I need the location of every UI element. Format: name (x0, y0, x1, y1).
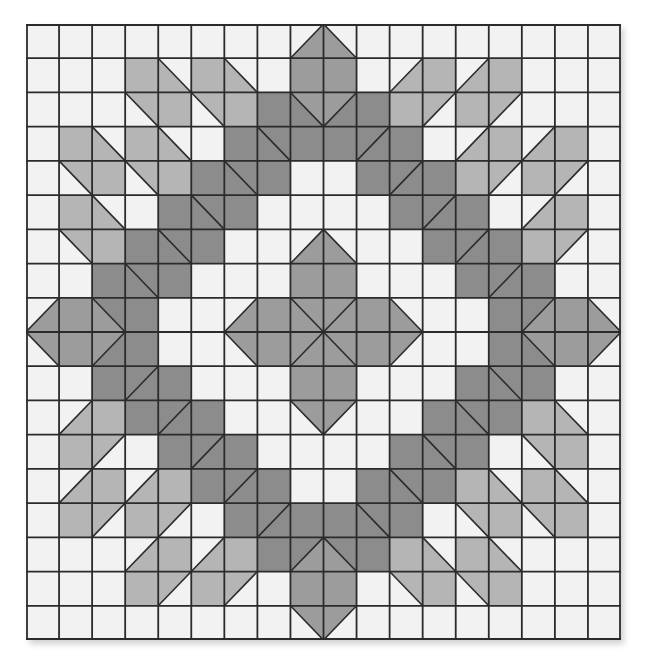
quilt-square (59, 92, 92, 127)
quilt-square (191, 24, 224, 59)
quilt-square (357, 469, 390, 504)
quilt-square (125, 503, 158, 538)
quilt-square (59, 435, 92, 470)
quilt-square (423, 229, 456, 264)
quilt-square (555, 435, 588, 470)
quilt-square (59, 195, 92, 230)
quilt-square (555, 264, 588, 299)
quilt-square (26, 92, 59, 127)
quilt-square (290, 572, 323, 607)
quilt-square (26, 503, 59, 538)
quilt-square (357, 400, 390, 435)
quilt-square (59, 127, 92, 162)
quilt-square (224, 92, 257, 127)
quilt-square (290, 127, 323, 162)
quilt-square (92, 537, 125, 572)
quilt-square (588, 469, 621, 504)
quilt-square (158, 332, 191, 367)
quilt-square (555, 366, 588, 401)
quilt-square (92, 469, 125, 504)
quilt-square (588, 195, 621, 230)
quilt-square (357, 24, 390, 59)
quilt-square (191, 366, 224, 401)
quilt-square (158, 298, 191, 333)
quilt-square (224, 366, 257, 401)
quilt-square (555, 606, 588, 640)
quilt-square (59, 503, 92, 538)
quilt-square (59, 58, 92, 93)
quilt-square (324, 469, 357, 504)
quilt-square (92, 572, 125, 607)
quilt-square (522, 606, 555, 640)
quilt-square (26, 572, 59, 607)
quilt-square (92, 366, 125, 401)
quilt-square (59, 264, 92, 299)
quilt-square (357, 606, 390, 640)
quilt-square (191, 572, 224, 607)
quilt-square (158, 537, 191, 572)
quilt-square (588, 400, 621, 435)
quilt-square (125, 332, 158, 367)
quilt-square (324, 58, 357, 93)
quilt-square (125, 572, 158, 607)
quilt-square (257, 24, 290, 59)
quilt-square (324, 127, 357, 162)
quilt-square (92, 92, 125, 127)
quilt-square (290, 195, 323, 230)
quilt-square (489, 58, 522, 93)
quilt-square (92, 24, 125, 59)
quilt-square (489, 503, 522, 538)
quilt-square (555, 92, 588, 127)
quilt-square (456, 537, 489, 572)
quilt-square (125, 24, 158, 59)
quilt-square (125, 298, 158, 333)
quilt-square (224, 195, 257, 230)
quilt-square (257, 400, 290, 435)
quilt-square (125, 127, 158, 162)
quilt-square (257, 161, 290, 196)
quilt-square (257, 298, 290, 333)
quilt-square (555, 127, 588, 162)
quilt-square (125, 606, 158, 640)
quilt-square (158, 606, 191, 640)
quilt-square (489, 127, 522, 162)
quilt-square (290, 264, 323, 299)
quilt-square (489, 298, 522, 333)
quilt-square (59, 298, 92, 333)
quilt-square (588, 503, 621, 538)
quilt-square (522, 537, 555, 572)
quilt-square (257, 572, 290, 607)
quilt-square (257, 195, 290, 230)
quilt-square (522, 366, 555, 401)
quilt-square (224, 229, 257, 264)
quilt-square (26, 400, 59, 435)
quilt-square (224, 435, 257, 470)
quilt-square (456, 366, 489, 401)
quilt-square (125, 229, 158, 264)
quilt-square (224, 127, 257, 162)
quilt-square (423, 469, 456, 504)
quilt-square (324, 572, 357, 607)
quilt-square (390, 24, 423, 59)
quilt-square (92, 400, 125, 435)
quilt-square (423, 400, 456, 435)
quilt-square (290, 435, 323, 470)
quilt-square (588, 366, 621, 401)
quilt-square (555, 298, 588, 333)
quilt-square (555, 24, 588, 59)
quilt-square (257, 469, 290, 504)
quilt-square (489, 435, 522, 470)
quilt-square (191, 332, 224, 367)
quilt-square (324, 195, 357, 230)
quilt-square (390, 366, 423, 401)
quilt-square (423, 58, 456, 93)
quilt-square (26, 24, 59, 59)
quilt-square (257, 332, 290, 367)
quilt-square (191, 503, 224, 538)
quilt-square (158, 161, 191, 196)
quilt-square (158, 92, 191, 127)
quilt-square (456, 264, 489, 299)
quilt-square (224, 400, 257, 435)
quilt-square (423, 572, 456, 607)
quilt-square (357, 264, 390, 299)
